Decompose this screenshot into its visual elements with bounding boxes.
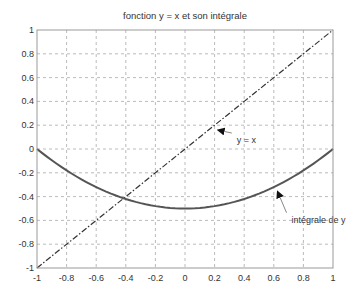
y-tick-label: 0.8 bbox=[21, 49, 34, 59]
annotation-arrow bbox=[219, 130, 232, 133]
annotation-label: y = x bbox=[237, 135, 257, 145]
y-tick-label: 1 bbox=[29, 25, 34, 35]
x-tick-label: 0.6 bbox=[268, 273, 281, 283]
y-tick-label: 0.4 bbox=[21, 96, 34, 106]
x-tick-label: -0.4 bbox=[118, 273, 134, 283]
y-tick-label: 0 bbox=[29, 144, 34, 154]
y-tick-label: -0.2 bbox=[18, 168, 34, 178]
annotation-arrow bbox=[278, 192, 287, 213]
y-axis: -1-0.8-0.6-0.4-0.200.20.40.60.81 bbox=[18, 25, 34, 273]
x-tick-label: 0.4 bbox=[238, 273, 251, 283]
y-tick-label: -0.6 bbox=[18, 215, 34, 225]
x-tick-label: -0.6 bbox=[88, 273, 104, 283]
x-axis: -1-0.8-0.6-0.4-0.200.20.40.60.81 bbox=[33, 273, 336, 283]
x-tick-label: -0.8 bbox=[59, 273, 75, 283]
x-tick-label: 1 bbox=[330, 273, 335, 283]
y-tick-label: -0.4 bbox=[18, 192, 34, 202]
y-tick-label: 0.6 bbox=[21, 73, 34, 83]
x-tick-label: 0.8 bbox=[297, 273, 310, 283]
y-tick-label: -1 bbox=[26, 263, 34, 273]
chart-title: fonction y = x et son intégrale bbox=[123, 10, 247, 21]
annotation-label: intégrale de y bbox=[292, 215, 347, 225]
x-tick-label: -1 bbox=[33, 273, 41, 283]
annotations: y = xintégrale de y bbox=[219, 130, 346, 225]
x-tick-label: 0 bbox=[182, 273, 187, 283]
chart: fonction y = x et son intégrale y = xint… bbox=[0, 0, 353, 297]
x-tick-label: 0.2 bbox=[208, 273, 221, 283]
y-tick-label: -0.8 bbox=[18, 239, 34, 249]
x-tick-label: -0.2 bbox=[148, 273, 164, 283]
y-tick-label: 0.2 bbox=[21, 120, 34, 130]
